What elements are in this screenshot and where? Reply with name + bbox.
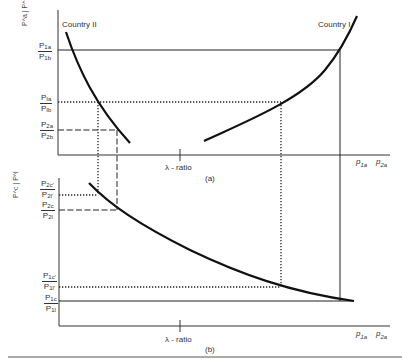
panel-b-x-label-p2a: p2a xyxy=(376,330,387,340)
panel-b-x-axis-label: λ - ratio xyxy=(165,336,192,344)
panel-b-ytick-p1cprime-p1lprime: P1c' P1l' xyxy=(42,272,57,291)
panel-a-x-label-p2a: p2a xyxy=(376,158,387,168)
panel-b-ytick-p1c-p1l: P1c P1l xyxy=(44,294,58,313)
panel-a-ytick-p2a-p2b: P2a P2b xyxy=(40,121,54,140)
panel-b-x-label-p1a: p1a xyxy=(356,330,367,340)
panel-a-ytick-p1a-p1b: P1a P1b xyxy=(38,42,52,61)
country-i-curve xyxy=(204,16,357,141)
panel-b-y-axis-label: P^c | P^l xyxy=(12,171,19,198)
panel-b-ytick-p2cprime-p2lprime: P2c' P2l' xyxy=(40,180,55,199)
panel-b-caption: (b) xyxy=(205,346,215,354)
country-i-label: Country I xyxy=(318,21,350,29)
panel-a-ytick-pIa-pIb: PIa PIb xyxy=(40,94,52,113)
country-ii-label: Country II xyxy=(62,21,97,29)
panel-a-caption: (a) xyxy=(205,175,215,183)
panel-b-ytick-p2c-p2l: P2c P2l xyxy=(41,201,55,220)
panel-a-x-axis-label: λ - ratio xyxy=(165,164,192,172)
two-panel-price-ratio-diagram xyxy=(0,0,402,360)
panel-b-curve xyxy=(89,183,354,301)
panel-a-y-axis-label: P^a | P^b xyxy=(21,0,28,26)
panel-a-x-label-p1a: p1a xyxy=(356,158,367,168)
